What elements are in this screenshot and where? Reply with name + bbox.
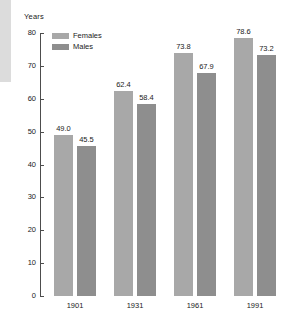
bar-females-1961[interactable]: 73.8 <box>174 53 193 296</box>
bar-group: 49.045.51901 <box>54 33 96 296</box>
bar-value-label: 62.4 <box>109 81 139 89</box>
x-axis-tick-label: 1931 <box>114 301 156 310</box>
y-axis-tick-label: 10 <box>18 259 36 267</box>
x-axis-tick-label: 1991 <box>234 301 276 310</box>
bar-males-1991[interactable]: 73.2 <box>257 55 276 296</box>
y-axis-tick-label: 80 <box>18 29 36 37</box>
y-axis-tick-label: 60 <box>18 95 36 103</box>
x-axis-tick-label: 1961 <box>174 301 216 310</box>
bar-value-label: 58.4 <box>132 94 162 102</box>
plot-area: 49.045.5190162.458.4193173.867.9196178.6… <box>41 33 287 296</box>
bar-females-1901[interactable]: 49.0 <box>54 135 73 296</box>
bar-value-label: 73.8 <box>169 43 199 51</box>
bar-value-label: 73.2 <box>252 45 282 53</box>
y-axis-tick-label: 50 <box>18 128 36 136</box>
bar-group: 73.867.91961 <box>174 33 216 296</box>
life-expectancy-bar-chart: Years 80706050403020100 Females Males 49… <box>0 0 288 319</box>
bar-males-1931[interactable]: 58.4 <box>137 104 156 296</box>
y-axis-tick-label: 0 <box>18 292 36 300</box>
bar-value-label: 78.6 <box>229 28 259 36</box>
y-axis-tick-label: 70 <box>18 62 36 70</box>
y-axis-tick-label: 20 <box>18 226 36 234</box>
bar-group: 78.673.21991 <box>234 33 276 296</box>
bar-males-1901[interactable]: 45.5 <box>77 146 96 296</box>
bar-value-label: 49.0 <box>49 125 79 133</box>
bar-males-1961[interactable]: 67.9 <box>197 73 216 296</box>
y-axis-tick-label: 40 <box>18 161 36 169</box>
bar-females-1931[interactable]: 62.4 <box>114 91 133 296</box>
y-axis-unit-label: Years <box>24 12 44 21</box>
bar-value-label: 67.9 <box>192 63 222 71</box>
bar-group: 62.458.41931 <box>114 33 156 296</box>
y-axis-tick <box>40 296 44 297</box>
bar-females-1991[interactable]: 78.6 <box>234 38 253 296</box>
x-axis-tick-label: 1901 <box>54 301 96 310</box>
y-axis-tick-label: 30 <box>18 193 36 201</box>
bar-value-label: 45.5 <box>72 136 102 144</box>
